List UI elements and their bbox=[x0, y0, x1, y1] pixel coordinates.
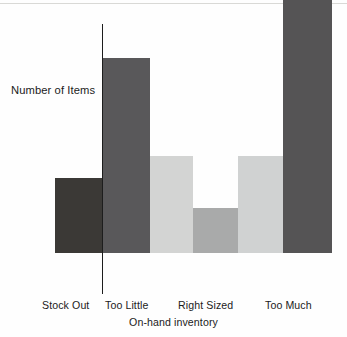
x-tick-label-too-little: Too Little bbox=[105, 299, 148, 311]
bar-light-left bbox=[150, 156, 193, 253]
x-tick-label-stock-out: Stock Out bbox=[42, 299, 89, 311]
plot-area bbox=[0, 0, 347, 297]
x-axis-title: On-hand inventory bbox=[0, 316, 347, 328]
baseline-highlight bbox=[55, 287, 332, 293]
bar-too-much bbox=[283, 0, 332, 253]
bar-right-sized bbox=[193, 208, 238, 253]
bar-stock-out bbox=[55, 178, 103, 253]
x-tick-label-right-sized: Right Sized bbox=[178, 299, 233, 311]
y-axis-label: Number of Items bbox=[11, 84, 95, 96]
y-axis-line bbox=[102, 24, 103, 294]
bar-chart: Number of Items Stock Out Too Little Rig… bbox=[0, 0, 347, 337]
x-tick-label-too-much: Too Much bbox=[265, 299, 312, 311]
bar-too-little bbox=[103, 58, 150, 253]
bar-light-right bbox=[238, 156, 283, 253]
